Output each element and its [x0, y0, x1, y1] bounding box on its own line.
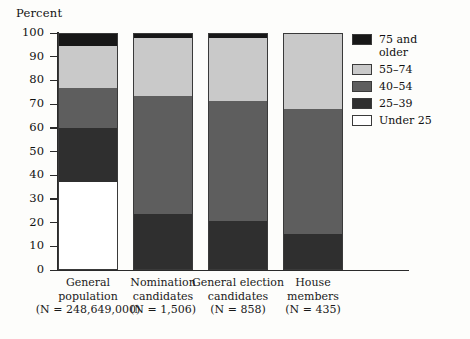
legend-item-3[interactable]: 40–54	[352, 80, 468, 93]
legend-swatch-icon	[352, 98, 372, 109]
legend-swatch-icon	[352, 81, 372, 92]
x-label-line2: members	[253, 290, 373, 304]
y-tick-mark	[50, 270, 57, 271]
bar-segment-75-and-older	[59, 34, 117, 46]
legend-item-1[interactable]: 75 andolder	[352, 33, 468, 59]
y-tick-mark	[50, 175, 57, 176]
legend-label-line2: older	[379, 46, 417, 59]
x-label-sample-size: (N = 435)	[253, 303, 373, 317]
bar-segment-25–39	[134, 214, 192, 269]
bar-segment-55–74	[284, 34, 342, 109]
legend-swatch-icon	[352, 34, 372, 45]
y-tick-label: 70	[0, 98, 44, 110]
y-tick-mark	[50, 246, 57, 247]
legend-item-4[interactable]: 25–39	[352, 97, 468, 110]
y-tick-mark	[50, 222, 57, 223]
y-tick-label: 10	[0, 241, 44, 253]
bar-segment-25–39	[209, 221, 267, 269]
bar-segment-25–39	[59, 128, 117, 182]
bar-segment-55–74	[59, 46, 117, 88]
y-tick-label: 30	[0, 193, 44, 205]
y-tick-label: 90	[0, 51, 44, 63]
legend-label: Under 25	[379, 114, 432, 127]
bar-3[interactable]	[208, 33, 268, 270]
x-label-line1: House	[253, 276, 373, 290]
y-tick-label: 60	[0, 122, 44, 134]
y-tick-label: 50	[0, 146, 44, 158]
y-tick-label: 80	[0, 75, 44, 87]
legend-label: 25–39	[379, 97, 413, 110]
y-tick-label: 20	[0, 217, 44, 229]
bar-segment-55–74	[209, 38, 267, 101]
bar-1[interactable]	[58, 33, 118, 270]
legend-item-2[interactable]: 55–74	[352, 63, 468, 76]
legend-swatch-icon	[352, 64, 372, 75]
y-axis-title: Percent	[16, 6, 62, 20]
legend-item-5[interactable]: Under 25	[352, 114, 468, 127]
y-tick-label: 0	[0, 264, 44, 276]
y-tick-mark	[50, 80, 57, 81]
legend-swatch-icon	[352, 115, 372, 126]
bar-segment-25–39	[284, 234, 342, 269]
y-tick-mark	[50, 127, 57, 128]
y-tick-mark	[50, 56, 57, 57]
legend-label: 55–74	[379, 63, 413, 76]
y-tick-mark	[50, 104, 57, 105]
stacked-bar-chart: Percent 1009080706050403020100 Generalpo…	[0, 0, 470, 339]
bar-segment-55–74	[134, 38, 192, 97]
legend-label: 40–54	[379, 80, 413, 93]
chart-legend: 75 andolder55–7440–5425–39Under 25	[352, 33, 468, 131]
legend-label: 75 andolder	[379, 33, 417, 59]
y-tick-mark	[50, 33, 57, 34]
x-axis-label-4: Housemembers(N = 435)	[253, 276, 373, 317]
plot-area	[58, 33, 343, 270]
bar-segment-40–54	[134, 96, 192, 214]
y-tick-mark	[50, 151, 57, 152]
bar-segment-40–54	[59, 88, 117, 128]
bar-4[interactable]	[283, 33, 343, 270]
bar-segment-under-25	[59, 182, 117, 269]
y-tick-label: 100	[0, 27, 44, 39]
y-tick-mark	[50, 198, 57, 199]
y-tick-label: 40	[0, 169, 44, 181]
bar-segment-40–54	[209, 101, 267, 221]
bar-2[interactable]	[133, 33, 193, 270]
bar-segment-40–54	[284, 109, 342, 234]
